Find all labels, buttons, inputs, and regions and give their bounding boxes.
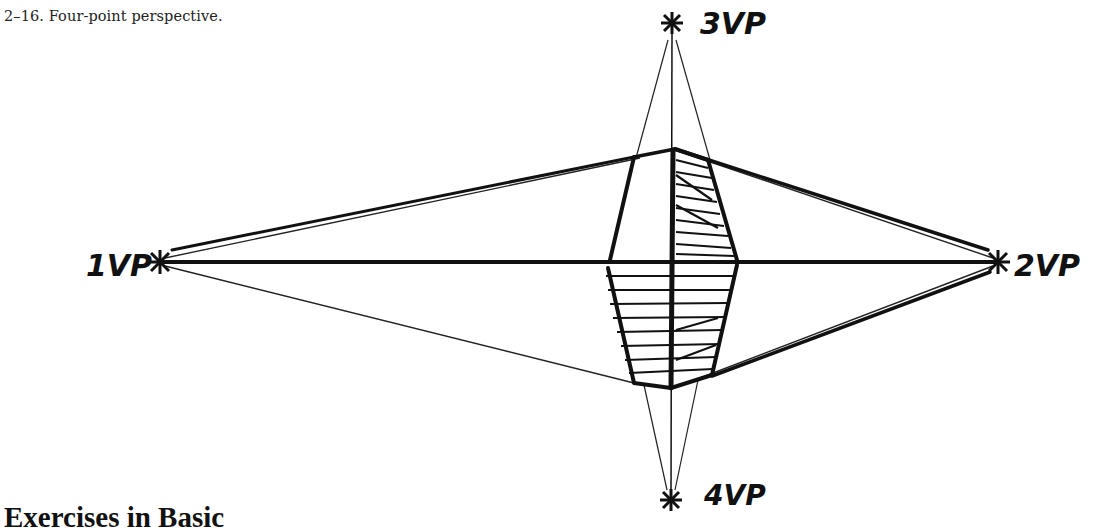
vp-label-3: 3VP: [700, 6, 766, 41]
vp-label-4: 4VP: [703, 479, 766, 512]
vp-label-1: 1VP: [86, 248, 152, 283]
construction-line: [676, 40, 710, 160]
four-point-perspective-drawing: 1VP 2VP 3VP 4VP: [0, 0, 1102, 531]
perspective-object: [172, 149, 990, 388]
vp-star-icon-4: [660, 489, 682, 511]
vp-star-icon-3: [661, 12, 683, 34]
construction-line: [165, 158, 640, 258]
construction-line: [636, 40, 668, 158]
construction-line: [700, 266, 993, 378]
construction-line: [644, 385, 667, 490]
construction-line: [675, 380, 698, 490]
hatching-upper-right: [676, 160, 734, 256]
vp-label-2: 2VP: [1014, 248, 1080, 283]
section-heading: Exercises in Basic: [4, 503, 224, 531]
vp-star-icon-2: [986, 250, 1010, 274]
construction-line: [165, 266, 634, 383]
